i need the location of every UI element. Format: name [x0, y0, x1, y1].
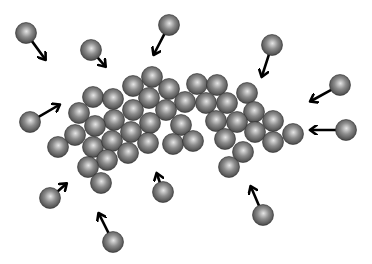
cluster-sphere — [140, 113, 161, 134]
direction-arrow-icon — [31, 40, 45, 59]
diagram-canvas — [0, 0, 372, 264]
cluster-sphere — [207, 75, 228, 96]
cluster-sphere — [283, 124, 304, 145]
cluster-sphere — [217, 93, 238, 114]
direction-arrow-icon — [251, 187, 260, 207]
cluster-sphere — [83, 87, 104, 108]
free-particle-p9 — [103, 232, 124, 253]
cluster-sphere — [138, 133, 159, 154]
free-particle-p5 — [330, 75, 351, 96]
cluster-sphere — [196, 93, 217, 114]
cluster-sphere — [118, 143, 139, 164]
free-particle-p2 — [81, 40, 102, 61]
cluster-sphere — [245, 122, 266, 143]
cluster-sphere — [103, 89, 124, 110]
cluster-sphere — [123, 100, 144, 121]
free-particle-p8 — [40, 188, 61, 209]
free-particle-p4 — [262, 35, 283, 56]
direction-arrow-icon — [99, 214, 109, 234]
direction-arrow-icon — [262, 53, 269, 76]
free-particle-p7 — [20, 112, 41, 133]
cluster-sphere — [215, 129, 236, 150]
cluster-sphere — [219, 157, 240, 178]
cluster-sphere — [85, 116, 106, 137]
cluster-sphere — [163, 134, 184, 155]
cluster-sphere — [183, 131, 204, 152]
cluster-sphere — [237, 83, 258, 104]
cluster-sphere — [187, 74, 208, 95]
free-particle-p10 — [153, 182, 174, 203]
free-particle-p11 — [253, 205, 274, 226]
cluster-sphere — [48, 137, 69, 158]
direction-arrow-icon — [37, 105, 59, 118]
cluster-sphere — [263, 132, 284, 153]
free-particle-p6 — [336, 120, 357, 141]
direction-arrow-icon — [311, 89, 333, 101]
cluster-sphere — [97, 150, 118, 171]
cluster-sphere — [263, 111, 284, 132]
cluster-sphere — [91, 173, 112, 194]
direction-arrow-icon — [154, 33, 165, 54]
free-particle-p3 — [159, 15, 180, 36]
free-particle-p1 — [16, 23, 37, 44]
particle-aggregation-diagram — [0, 0, 372, 264]
particle-cluster — [48, 67, 304, 194]
cluster-sphere — [175, 92, 196, 113]
